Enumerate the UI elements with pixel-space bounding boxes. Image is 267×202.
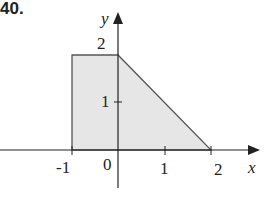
plot-svg bbox=[0, 0, 267, 202]
x-tick-label-1: 1 bbox=[160, 160, 169, 177]
y-tick-label-1: 1 bbox=[101, 93, 110, 110]
x-tick-label-0: 0 bbox=[103, 156, 112, 173]
x-axis-arrow-icon bbox=[248, 145, 260, 155]
y-tick-label-2: 2 bbox=[97, 35, 106, 52]
x-tick-label-neg1: -1 bbox=[56, 159, 70, 176]
x-tick-label-2: 2 bbox=[214, 161, 223, 178]
y-axis-label: y bbox=[101, 10, 109, 27]
y-axis-arrow-icon bbox=[113, 12, 123, 24]
x-axis-label: x bbox=[248, 159, 256, 176]
shaded-region bbox=[72, 55, 211, 150]
problem-number: 40. bbox=[0, 0, 24, 17]
